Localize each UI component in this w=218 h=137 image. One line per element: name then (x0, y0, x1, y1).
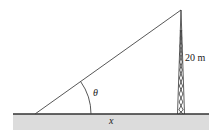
angle-label: θ (93, 87, 98, 98)
base-label: x (108, 115, 114, 126)
tower-icon (178, 10, 185, 114)
hypotenuse-line (35, 10, 181, 114)
height-label: 20 m (185, 52, 206, 63)
tower-triangle-diagram: 20 m θ x (0, 0, 218, 137)
angle-arc (81, 82, 91, 115)
